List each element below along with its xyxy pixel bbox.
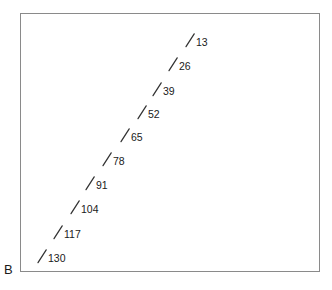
data-point-label: 52 — [148, 109, 160, 120]
data-point-label: 13 — [196, 37, 208, 48]
data-point-label: 26 — [179, 61, 191, 72]
slash-tick-icon — [37, 249, 48, 264]
slash-tick-icon — [102, 152, 113, 167]
slash-tick-icon — [185, 33, 196, 48]
figure-panel-b: B 13263952657891104117130 — [0, 0, 332, 290]
slash-tick-icon — [152, 82, 163, 97]
data-point-label: 104 — [81, 204, 99, 215]
slash-tick-icon — [70, 200, 81, 215]
slash-tick-icon — [137, 105, 148, 120]
data-point-label: 39 — [163, 86, 175, 97]
data-point-label: 117 — [64, 229, 81, 240]
data-point-label: 91 — [96, 180, 108, 191]
slash-tick-icon — [168, 57, 179, 72]
slash-tick-icon — [53, 225, 64, 240]
data-point-label: 65 — [131, 132, 143, 143]
data-point-label: 78 — [113, 156, 125, 167]
data-point-label: 130 — [48, 253, 66, 264]
slash-tick-icon — [85, 176, 96, 191]
slash-tick-icon — [120, 128, 131, 143]
panel-label-b: B — [4, 263, 13, 276]
